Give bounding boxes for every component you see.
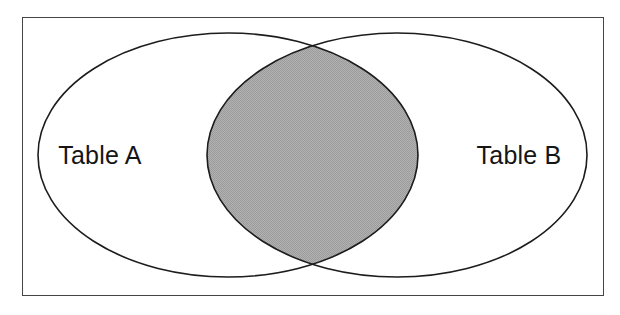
- set-b-label: Table B: [477, 141, 562, 169]
- venn-diagram-canvas: Table A Table B: [0, 0, 620, 315]
- set-a-label: Table A: [58, 141, 142, 169]
- venn-diagram-svg: Table A Table B: [0, 0, 620, 315]
